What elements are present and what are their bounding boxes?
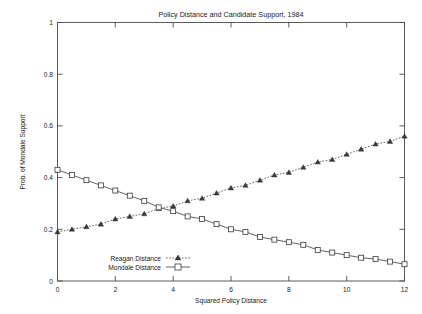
data-point — [84, 178, 89, 183]
y-tick-label-0: 0 — [49, 278, 53, 285]
data-point — [272, 237, 277, 242]
y-tick-label-5: 1 — [49, 19, 53, 26]
data-point — [257, 235, 262, 240]
chart-title: Policy Distance and Candidate Support, 1… — [158, 10, 303, 19]
data-point — [243, 229, 248, 234]
data-point — [185, 214, 190, 219]
data-point — [301, 242, 306, 247]
x-tick-label-0: 0 — [56, 286, 60, 293]
x-tick-label-6: 12 — [401, 286, 409, 293]
data-point — [373, 257, 378, 262]
y-tick-label-1: 0.2 — [44, 226, 53, 233]
x-tick-label-1: 2 — [113, 286, 117, 293]
data-point — [315, 247, 320, 252]
chart-figure: Policy Distance and Candidate Support, 1… — [0, 0, 422, 314]
data-point — [330, 250, 335, 255]
data-point — [98, 183, 103, 188]
data-point — [55, 167, 60, 172]
x-tick-label-2: 4 — [171, 286, 175, 293]
data-point — [402, 262, 407, 267]
data-point — [214, 222, 219, 227]
data-point — [229, 227, 234, 232]
data-point — [113, 188, 118, 193]
x-tick-label-4: 8 — [287, 286, 291, 293]
data-point — [286, 240, 291, 245]
data-point — [388, 259, 393, 264]
chart-canvas: Policy Distance and Candidate Support, 1… — [0, 0, 422, 314]
data-point — [200, 216, 205, 221]
x-tick-label-3: 6 — [229, 286, 233, 293]
x-tick-label-5: 10 — [343, 286, 351, 293]
data-point — [156, 205, 161, 210]
chart-background — [0, 0, 422, 314]
data-point — [171, 209, 176, 214]
data-point — [142, 198, 147, 203]
legend-label-reagan: Reagan Distance — [110, 255, 161, 263]
y-tick-label-2: 0.4 — [44, 174, 53, 181]
y-axis-title: Prob. of Mondale Support — [19, 114, 27, 189]
data-point — [359, 255, 364, 260]
x-axis-title: Squared Policy Distance — [195, 297, 267, 305]
legend-label-mondale: Mondale Distance — [108, 264, 161, 271]
y-tick-label-4: 0.8 — [44, 71, 53, 78]
y-tick-label-3: 0.6 — [44, 122, 53, 129]
data-point — [69, 173, 74, 178]
data-point — [344, 253, 349, 258]
data-point — [127, 193, 132, 198]
